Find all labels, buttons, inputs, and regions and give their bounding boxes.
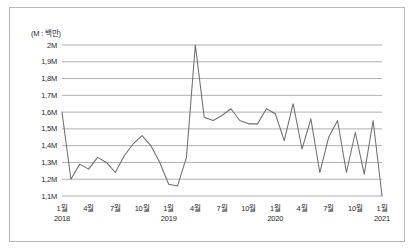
data-series-line (62, 45, 382, 196)
y-axis-tick-label: 1,7M (41, 91, 57, 100)
x-axis-tick-label: 10월 (241, 203, 256, 213)
x-axis-tick-labels: 1월4월7월10월1월4월7월10월1월4월7월10월1월 (57, 203, 388, 213)
x-axis-tick-label: 1월 (163, 203, 174, 213)
x-axis-tick-label: 4월 (83, 203, 94, 213)
y-axis-tick-labels: 2M1,9M1,8M1,7M1,6M1,5M1,4M1,3M1,2M1,1M (41, 41, 57, 201)
y-axis-tick-label: 1,5M (41, 124, 57, 133)
y-axis-tick-label: 1,2M (41, 175, 57, 184)
y-axis-tick-label: 1,4M (41, 141, 57, 150)
x-axis-tick-label: 7월 (217, 203, 228, 213)
x-axis-tick-label: 1월 (270, 203, 281, 213)
x-axis-year-label: 2019 (161, 214, 177, 223)
x-axis-tick-label: 10월 (348, 203, 363, 213)
x-axis-tick-label: 7월 (323, 203, 334, 213)
y-axis-tick-label: 1,3M (41, 158, 57, 167)
plot-area: 2M1,9M1,8M1,7M1,6M1,5M1,4M1,3M1,2M1,1M 1… (0, 0, 415, 252)
y-axis-tick-label: 1,6M (41, 108, 57, 117)
gridlines-group (62, 45, 382, 196)
y-axis-tick-label: 1,8M (41, 74, 57, 83)
x-axis-tick-label: 4월 (297, 203, 308, 213)
x-axis-tick-label: 7월 (110, 203, 121, 213)
y-axis-tick-label: 2M (47, 41, 57, 50)
x-axis-year-label: 2020 (267, 214, 283, 223)
y-axis-tick-label: 1,1M (41, 192, 57, 201)
x-axis-tick-label: 1월 (377, 203, 388, 213)
chart-figure: (M : 백만) 2M1,9M1,8M1,7M1,6M1,5M1,4M1,3M1… (0, 0, 415, 252)
x-axis-year-label: 2018 (54, 214, 70, 223)
line-chart-svg: 2M1,9M1,8M1,7M1,6M1,5M1,4M1,3M1,2M1,1M 1… (0, 0, 415, 252)
x-axis-tick-label: 4월 (190, 203, 201, 213)
x-axis-tick-label: 1월 (57, 203, 68, 213)
x-axis-year-labels: 2018201920202021 (54, 214, 390, 223)
x-axis-tick-label: 10월 (135, 203, 150, 213)
y-axis-tick-label: 1,9M (41, 57, 57, 66)
x-axis-year-label: 2021 (374, 214, 390, 223)
